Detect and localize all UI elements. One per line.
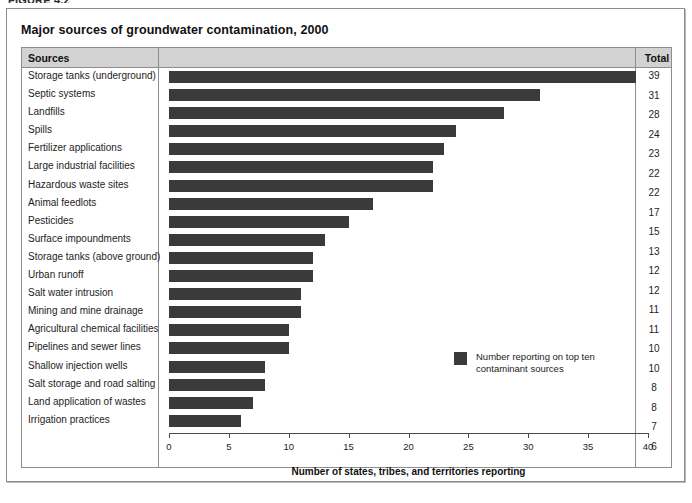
total-value: 11 xyxy=(635,302,673,322)
table-body: Storage tanks (underground)Septic system… xyxy=(22,68,671,430)
table-row: Pesticides xyxy=(22,213,671,231)
row-label: Septic systems xyxy=(28,88,95,99)
total-value: 12 xyxy=(635,263,673,283)
total-value: 23 xyxy=(635,146,673,166)
table-row: Mining and mine drainage xyxy=(22,303,671,321)
row-label: Irrigation practices xyxy=(28,414,110,425)
bar-track xyxy=(169,306,301,318)
bar-track xyxy=(169,216,349,228)
row-label: Large industrial facilities xyxy=(28,160,135,171)
bar xyxy=(169,379,265,391)
data-table: Sources Total Storage tanks (underground… xyxy=(21,47,672,468)
row-label: Hazardous waste sites xyxy=(28,179,129,190)
bar xyxy=(169,198,373,210)
table-row: Septic systems xyxy=(22,86,671,104)
x-axis-tick-label: 35 xyxy=(583,441,594,452)
legend-label: Number reporting on top ten contaminant … xyxy=(476,351,606,374)
bar xyxy=(169,180,433,192)
x-axis-tick-label: 15 xyxy=(343,441,354,452)
x-axis-tick xyxy=(588,433,589,438)
figure-frame: Major sources of groundwater contaminati… xyxy=(6,8,685,482)
table-row: Animal feedlots xyxy=(22,195,671,213)
row-label: Spills xyxy=(28,124,52,135)
bar-track xyxy=(169,324,289,336)
legend-swatch xyxy=(454,352,467,365)
row-label: Mining and mine drainage xyxy=(28,305,143,316)
total-value: 10 xyxy=(635,361,673,381)
total-value: 8 xyxy=(635,400,673,420)
row-label: Surface impoundments xyxy=(28,233,131,244)
x-axis-tick-label: 10 xyxy=(284,441,295,452)
table-row: Landfills xyxy=(22,104,671,122)
total-value: 13 xyxy=(635,244,673,264)
bar-track xyxy=(169,252,313,264)
x-axis-tick-label: 25 xyxy=(463,441,474,452)
x-axis-title: Number of states, tribes, and territorie… xyxy=(169,466,648,477)
bar-track xyxy=(169,234,325,246)
total-value: 11 xyxy=(635,322,673,342)
bar-track xyxy=(169,180,433,192)
row-label: Animal feedlots xyxy=(28,197,96,208)
bar-track xyxy=(169,143,444,155)
row-label: Land application of wastes xyxy=(28,396,146,407)
table-row: Irrigation practices xyxy=(22,412,671,430)
table-row: Agricultural chemical facilities xyxy=(22,321,671,339)
x-axis-tick-label: 20 xyxy=(403,441,414,452)
bar xyxy=(169,288,301,300)
bar xyxy=(169,415,241,427)
row-label: Storage tanks (above ground) xyxy=(28,251,160,262)
bar-track xyxy=(169,125,456,137)
table-row: Hazardous waste sites xyxy=(22,177,671,195)
bar xyxy=(169,216,349,228)
x-axis-tick xyxy=(648,433,649,438)
bar-track xyxy=(169,198,373,210)
table-row: Land application of wastes xyxy=(22,394,671,412)
total-value: 17 xyxy=(635,205,673,225)
bar-track xyxy=(169,342,289,354)
bar-track xyxy=(169,270,313,282)
total-value: 15 xyxy=(635,224,673,244)
bar xyxy=(169,397,253,409)
bar xyxy=(169,306,301,318)
x-axis-tick-label: 40 xyxy=(643,441,654,452)
bar xyxy=(169,342,289,354)
x-axis-tick-label: 0 xyxy=(166,441,171,452)
table-row: Storage tanks (underground) xyxy=(22,68,671,86)
total-value: 12 xyxy=(635,283,673,303)
table-row: Salt water intrusion xyxy=(22,285,671,303)
bar-track xyxy=(169,107,504,119)
row-label: Storage tanks (underground) xyxy=(28,70,156,81)
x-axis-tick xyxy=(528,433,529,438)
x-axis-tick xyxy=(468,433,469,438)
table-row: Surface impoundments xyxy=(22,231,671,249)
row-label: Salt water intrusion xyxy=(28,287,113,298)
table-row: Fertilizer applications xyxy=(22,140,671,158)
x-axis-tick xyxy=(169,433,170,438)
bar xyxy=(169,361,265,373)
total-value: 28 xyxy=(635,107,673,127)
x-axis-tick-label: 30 xyxy=(523,441,534,452)
table-row: Salt storage and road salting xyxy=(22,376,671,394)
column-header-sources: Sources xyxy=(28,52,69,64)
x-axis-tick-label: 5 xyxy=(226,441,231,452)
row-label: Agricultural chemical facilities xyxy=(28,323,159,334)
table-header-row: Sources Total xyxy=(22,48,671,68)
x-axis: Number of states, tribes, and territorie… xyxy=(169,433,648,493)
row-label: Landfills xyxy=(28,106,65,117)
column-header-total: Total xyxy=(641,52,673,64)
row-label: Fertilizer applications xyxy=(28,142,122,153)
row-label: Urban runoff xyxy=(28,269,83,280)
totals-column: 393128242322221715131212111110108876 xyxy=(635,68,673,458)
total-value: 22 xyxy=(635,185,673,205)
x-axis-tick xyxy=(289,433,290,438)
total-value: 31 xyxy=(635,88,673,108)
bar-track xyxy=(169,89,540,101)
bar-track xyxy=(169,415,241,427)
bar-track xyxy=(169,161,433,173)
bar xyxy=(169,252,313,264)
bar-track xyxy=(169,379,265,391)
figure-root: FIGURE 4.2 Major sources of groundwater … xyxy=(0,0,692,503)
row-label: Salt storage and road salting xyxy=(28,378,155,389)
bar xyxy=(169,143,444,155)
bar xyxy=(169,270,313,282)
